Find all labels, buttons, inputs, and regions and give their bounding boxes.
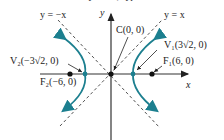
x-axis-label: x [185,79,191,90]
v2-label: V₂(−3√2, 0) [10,55,59,67]
focus-f1 [149,71,154,76]
svg-text:the h... y ... 18, hyperbola: the h... y ... 18, hyperbola [60,0,162,1]
center-point [108,71,113,76]
pointer-v2 [68,64,82,72]
asymptote-pos-label: y = x [164,9,185,20]
hyperbola-diagram: the h... y ... 18, hyperbola y = −x y = … [0,0,224,140]
f1-label: F₁(6, 0) [163,55,194,67]
f2-label: F₂(−6, 0) [40,76,76,88]
pointer-f1 [154,66,162,72]
vertex-v2 [83,72,88,77]
caption-partial: the h... y ... 18, hyperbola [60,0,162,1]
center-label: C(0, 0) [116,24,144,36]
asymptote-neg-label: y = −x [40,9,66,20]
vertex-v1 [131,72,136,77]
y-axis-label: y [99,7,105,18]
v1-label: V₁(3√2, 0) [164,39,207,51]
pointer-center [114,37,128,70]
